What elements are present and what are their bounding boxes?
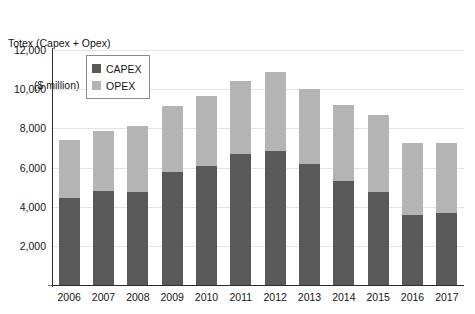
x-axis-tick-label: 2009 (160, 291, 183, 303)
x-axis-tick-label: 2016 (401, 291, 424, 303)
bar-segment-opex[interactable] (333, 105, 354, 181)
x-axis-tick-label: 2012 (263, 291, 286, 303)
bar-segment-opex[interactable] (368, 115, 389, 192)
bar-group[interactable] (196, 50, 217, 285)
bar-segment-opex[interactable] (265, 72, 286, 151)
bar-segment-capex[interactable] (127, 192, 148, 285)
x-axis-tick-label: 2007 (92, 291, 115, 303)
bar-group[interactable] (402, 50, 423, 285)
y-axis-tick-label: 2,000 (0, 240, 46, 252)
x-axis-tick-label: 2015 (366, 291, 389, 303)
bar-group[interactable] (299, 50, 320, 285)
x-axis-tick-label: 2017 (435, 291, 458, 303)
bar-segment-capex[interactable] (59, 198, 80, 285)
bar-segment-capex[interactable] (333, 181, 354, 285)
bar-segment-capex[interactable] (265, 151, 286, 285)
y-axis-tick-label: 4,000 (0, 201, 46, 213)
bar-segment-opex[interactable] (436, 143, 457, 213)
bar-group[interactable] (333, 50, 354, 285)
legend-swatch-icon (92, 81, 101, 90)
bar-segment-capex[interactable] (162, 172, 183, 285)
bar-segment-opex[interactable] (402, 143, 423, 214)
x-axis-tick-label: 2010 (195, 291, 218, 303)
chart-title-line-1: Totex (Capex + Opex) (8, 36, 110, 50)
bar-group[interactable] (368, 50, 389, 285)
bar-segment-capex[interactable] (196, 166, 217, 285)
x-axis-tick-label: 2006 (57, 291, 80, 303)
chart-legend: CAPEXOPEX (86, 55, 150, 99)
x-axis-tick-label: 2011 (230, 291, 253, 303)
bar-segment-opex[interactable] (196, 96, 217, 166)
legend-swatch-icon (92, 64, 101, 73)
x-axis-tick-label: 2008 (126, 291, 149, 303)
bar-group[interactable] (230, 50, 251, 285)
x-axis-tick-label: 2014 (332, 291, 355, 303)
y-axis-tick-label: 6,000 (0, 162, 46, 174)
bar-segment-opex[interactable] (162, 106, 183, 173)
legend-item[interactable]: OPEX (92, 77, 142, 94)
bar-segment-opex[interactable] (93, 131, 114, 191)
bar-segment-opex[interactable] (127, 126, 148, 192)
bar-group[interactable] (436, 50, 457, 285)
legend-label: CAPEX (106, 63, 142, 75)
legend-item[interactable]: CAPEX (92, 60, 142, 77)
legend-label: OPEX (106, 80, 135, 92)
x-axis-tick-label: 2013 (298, 291, 321, 303)
chart-container: Totex (Capex + Opex) ($ million) 2,0004,… (0, 0, 475, 314)
bar-segment-capex[interactable] (368, 192, 389, 285)
bar-segment-opex[interactable] (230, 81, 251, 153)
bar-group[interactable] (265, 50, 286, 285)
bar-group[interactable] (59, 50, 80, 285)
bar-group[interactable] (162, 50, 183, 285)
y-axis-tick-label: 8,000 (0, 122, 46, 134)
bar-segment-capex[interactable] (299, 164, 320, 285)
bar-segment-capex[interactable] (93, 191, 114, 285)
bar-segment-capex[interactable] (436, 213, 457, 285)
bar-segment-opex[interactable] (299, 89, 320, 163)
bar-segment-capex[interactable] (402, 215, 423, 286)
bar-segment-opex[interactable] (59, 140, 80, 198)
bar-segment-capex[interactable] (230, 154, 251, 285)
